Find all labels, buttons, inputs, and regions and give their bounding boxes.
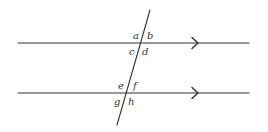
angle-label-a: a xyxy=(133,30,139,41)
transversal-line xyxy=(117,10,150,125)
angle-label-e: e xyxy=(118,80,124,91)
angle-label-c: c xyxy=(129,46,135,57)
angle-label-f: f xyxy=(132,80,139,91)
parallel-lines-transversal-diagram: a b c d e f g h xyxy=(0,0,268,132)
angle-label-g: g xyxy=(114,96,120,107)
angle-label-h: h xyxy=(128,96,134,107)
angle-label-b: b xyxy=(147,30,153,41)
angle-label-d: d xyxy=(142,46,148,57)
